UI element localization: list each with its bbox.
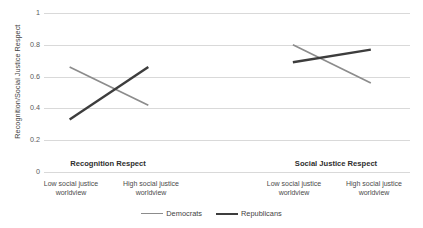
category-label-left-low-line2: worldview [32,189,110,198]
legend-item-democrats[interactable]: Democrats [141,209,202,218]
legend-swatch-democrats-icon [141,213,163,214]
legend-swatch-republicans-icon [216,213,238,215]
group-title-recognition-respect: Recognition Respect [44,160,172,168]
y-tick-0-6: 0.6 [18,73,40,80]
category-label-right-high-line1: High social justice [335,180,413,189]
category-label-left-high-line1: High social justice [112,180,190,189]
y-tick-1: 1 [18,9,40,16]
category-label-right-low-line1: Low social justice [255,180,333,189]
line-chart: Recognition/Social Justice Respect 1 0.8… [0,0,423,228]
chart-legend: Democrats Republicans [0,209,423,218]
legend-item-republicans[interactable]: Republicans [216,209,282,218]
y-tick-0-8: 0.8 [18,41,40,48]
category-label-left-low-line1: Low social justice [32,180,110,189]
category-label-right-low: Low social justice worldview [255,180,333,198]
y-tick-0-4: 0.4 [18,104,40,111]
series-line-democrats [70,45,371,105]
category-label-right-high: High social justice worldview [335,180,413,198]
gridline-0-baseline [44,172,410,173]
category-label-left-low: Low social justice worldview [32,180,110,198]
series-lines [44,13,410,172]
y-tick-0: 0 [18,168,40,175]
category-label-right-low-line2: worldview [255,189,333,198]
category-label-left-high-line2: worldview [112,189,190,198]
y-tick-0-2: 0.2 [18,136,40,143]
category-label-left-high: High social justice worldview [112,180,190,198]
legend-label-republicans: Republicans [241,209,282,218]
legend-label-democrats: Democrats [166,209,202,218]
group-title-social-justice-respect: Social Justice Respect [266,160,406,168]
plot-area [44,13,410,172]
category-label-right-high-line2: worldview [335,189,413,198]
